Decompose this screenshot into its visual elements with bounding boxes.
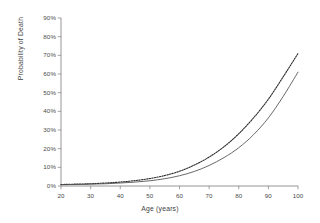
x-axis-tick-label: 70	[206, 193, 213, 199]
y-axis	[58, 18, 61, 186]
x-axis-tick-label: 100	[293, 193, 304, 199]
x-axis-tick-label: 50	[146, 193, 153, 199]
series-line-dotted-curve	[61, 53, 298, 184]
y-axis-tick-label: 30%	[30, 127, 56, 133]
y-axis-tick-label: 60%	[30, 71, 56, 77]
x-axis-title: Age (years)	[0, 205, 320, 212]
y-axis-tick-label: 80%	[30, 34, 56, 40]
y-axis-tick-label: 40%	[30, 108, 56, 114]
x-axis	[61, 186, 298, 189]
y-axis-tick-label: 10%	[30, 164, 56, 170]
y-axis-tick-label: 20%	[30, 146, 56, 152]
y-axis-tick-label: 0%	[30, 183, 56, 189]
y-axis-tick-label: 70%	[30, 52, 56, 58]
x-axis-tick-label: 40	[117, 193, 124, 199]
y-axis-tick-label: 90%	[30, 15, 56, 21]
x-axis-tick-label: 90	[265, 193, 272, 199]
series-line-solid-curve	[61, 72, 298, 185]
data-series-group	[61, 53, 298, 184]
x-axis-tick-label: 20	[57, 193, 64, 199]
x-axis-tick-label: 30	[87, 193, 94, 199]
x-axis-tick-label: 80	[235, 193, 242, 199]
y-axis-title: Probability of Death	[17, 0, 24, 109]
y-axis-tick-label: 50%	[30, 90, 56, 96]
chart-container: 0%10%20%30%40%50%60%70%80%90% 2030405060…	[0, 0, 320, 223]
x-axis-tick-label: 60	[176, 193, 183, 199]
